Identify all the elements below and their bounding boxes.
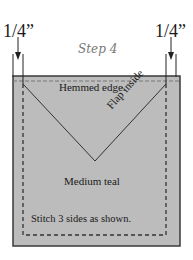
dimension-right: 1/4” [155, 21, 186, 42]
dimension-left: 1/4” [3, 21, 34, 42]
step-label: Step 4 [78, 42, 117, 56]
fabric-color-label: Medium teal [64, 175, 120, 187]
instruction-label: Stitch 3 sides as shown. [31, 213, 131, 224]
